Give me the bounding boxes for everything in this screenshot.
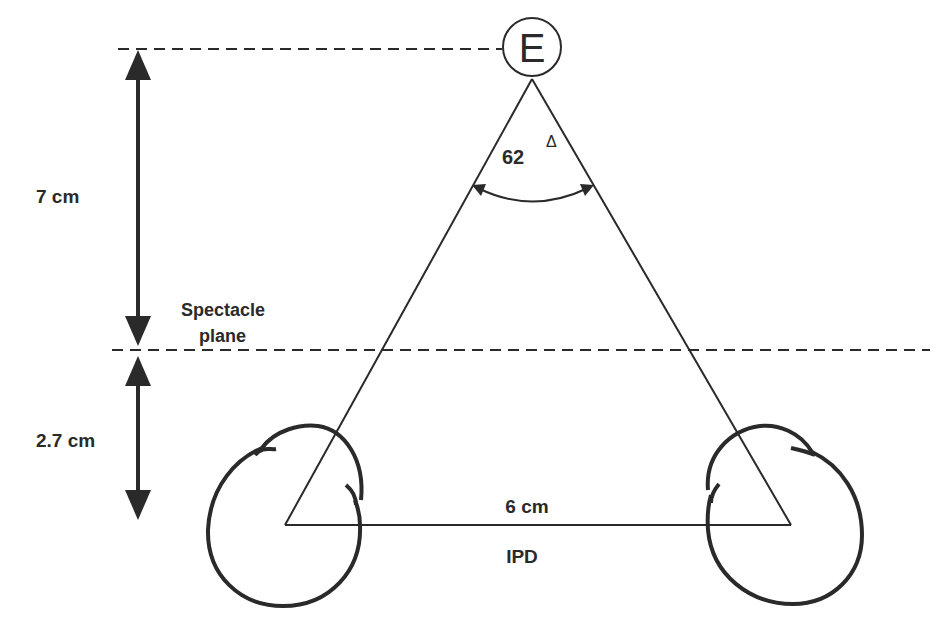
- spectacle-label-line1: Spectacle: [181, 300, 265, 320]
- target-letter: E: [519, 26, 546, 70]
- convergence-diagram: E 62 Δ 7 cm Spectacle plane 2.7 cm: [0, 0, 940, 638]
- angle-arc-icon: [472, 184, 594, 202]
- top-distance-label: 7 cm: [36, 186, 79, 207]
- angle-value: 62: [502, 146, 524, 168]
- left-eye-icon: [208, 426, 362, 606]
- base-distance-label: 6 cm: [505, 496, 548, 517]
- bottom-distance-arrow-icon: [125, 356, 151, 520]
- top-distance-arrow-icon: [125, 50, 151, 346]
- spectacle-label-line2: plane: [199, 326, 246, 346]
- bottom-distance-label: 2.7 cm: [36, 430, 95, 451]
- ipd-label: IPD: [506, 546, 538, 567]
- target-e-icon: E: [503, 18, 561, 76]
- prism-diopter-symbol: Δ: [546, 133, 557, 150]
